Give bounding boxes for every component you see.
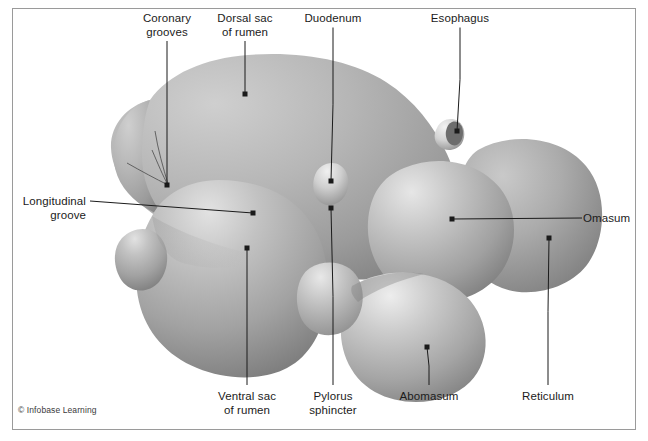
label-duodenum: Duodenum: [288, 12, 378, 26]
leader-dot-esophagus: [455, 129, 459, 133]
label-reticulum: Reticulum: [503, 390, 593, 404]
leader-dot-dorsal-sac-of-rumen: [243, 92, 247, 96]
label-longitudinal-groove: Longitudinal groove: [14, 195, 86, 222]
figure-root: Coronary grooves Dorsal sac of rumen Duo…: [0, 0, 648, 441]
ruminant-stomach-illustration: [0, 0, 648, 441]
leader-dot-longitudinal-groove: [251, 211, 255, 215]
leader-dot-duodenum: [329, 179, 333, 183]
organ-esophagus-ring: [446, 122, 463, 146]
label-coronary-grooves: Coronary grooves: [127, 12, 207, 39]
leader-dot-reticulum: [547, 236, 551, 240]
organ-masses: [111, 54, 602, 402]
copyright-notice: © Infobase Learning: [18, 405, 97, 415]
leader-dot-ventral-sac-of-rumen: [245, 246, 249, 250]
label-dorsal-sac-of-rumen: Dorsal sac of rumen: [205, 12, 285, 39]
leader-line-esophagus: [457, 28, 460, 132]
label-abomasum: Abomasum: [384, 390, 474, 404]
label-omasum: Omasum: [583, 212, 647, 226]
leader-dot-pylorus-sphincter: [329, 206, 333, 210]
leader-dot-abomasum: [425, 345, 429, 349]
label-pylorus-sphincter: Pylorus sphincter: [293, 390, 373, 417]
label-ventral-sac-of-rumen: Ventral sac of rumen: [205, 390, 289, 417]
label-esophagus: Esophagus: [415, 12, 505, 26]
organ-pyloric-lobe: [297, 263, 363, 336]
organ-ventral-sac-of-rumen: [136, 180, 328, 377]
leader-dot-omasum: [450, 217, 454, 221]
leader-dot-coronary-grooves: [165, 183, 169, 187]
